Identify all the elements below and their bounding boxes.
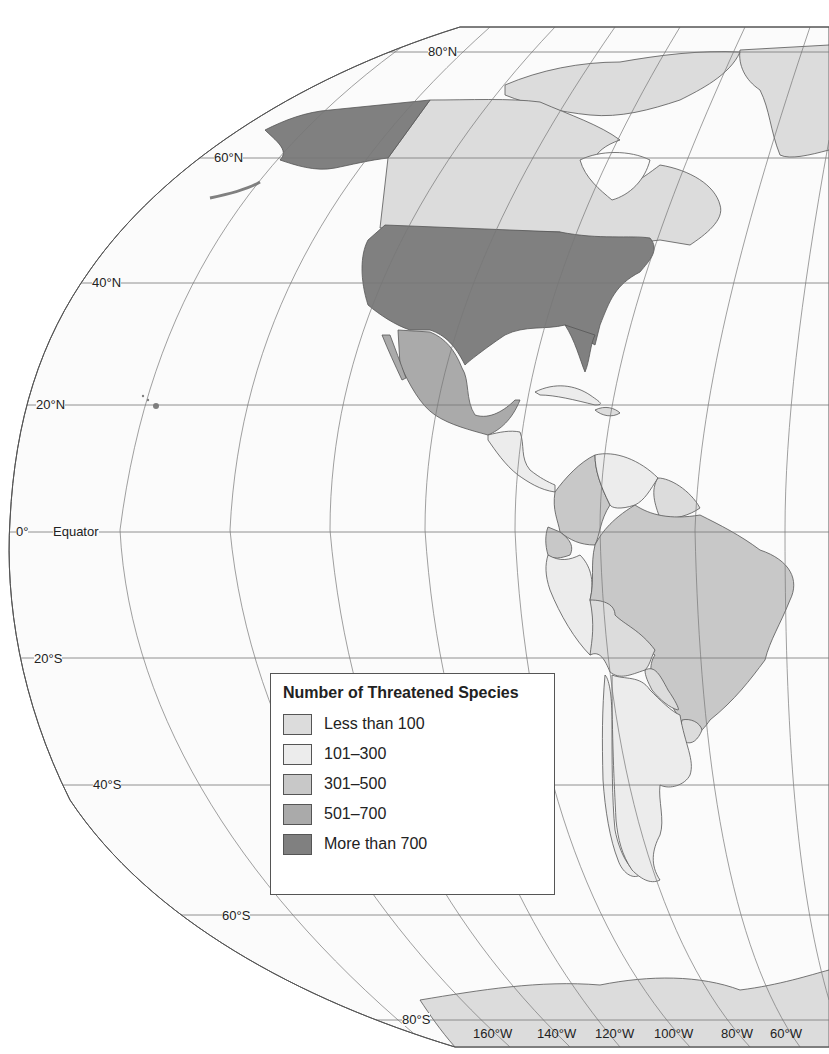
lon-label-100w: 100°W xyxy=(654,1027,693,1040)
lat-label-40n: 40°N xyxy=(92,276,121,289)
lat-label-20s: 20°S xyxy=(34,652,62,665)
lon-label-60w: 60°W xyxy=(770,1027,802,1040)
legend-title: Number of Threatened Species xyxy=(283,684,542,702)
lat-label-60n: 60°N xyxy=(214,151,243,164)
lon-label-80w: 80°W xyxy=(721,1027,753,1040)
lon-label-140w: 140°W xyxy=(537,1027,576,1040)
world-map xyxy=(0,0,829,1054)
legend-swatch-301-500 xyxy=(283,774,312,795)
legend-label: More than 700 xyxy=(324,835,427,853)
lat-label-20n: 20°N xyxy=(36,398,65,411)
legend-label: Less than 100 xyxy=(324,715,425,733)
region-hawaii xyxy=(153,403,159,409)
lat-label-40s: 40°S xyxy=(93,778,121,791)
legend-label: 101–300 xyxy=(324,745,386,763)
legend-item: Less than 100 xyxy=(283,709,542,739)
legend-item: 501–700 xyxy=(283,799,542,829)
lat-label-equator: Equator xyxy=(53,525,99,538)
legend-swatch-101-300 xyxy=(283,744,312,765)
legend-swatch-501-700 xyxy=(283,804,312,825)
legend-item: More than 700 xyxy=(283,829,542,859)
legend-swatch-more-than-700 xyxy=(283,834,312,855)
legend-label: 501–700 xyxy=(324,805,386,823)
lat-label-equator-degree: 0° xyxy=(16,525,28,538)
map-legend: Number of Threatened Species Less than 1… xyxy=(270,673,555,895)
legend-item: 301–500 xyxy=(283,769,542,799)
lat-label-60s: 60°S xyxy=(222,909,250,922)
lat-label-80n: 80°N xyxy=(428,45,457,58)
legend-item: 101–300 xyxy=(283,739,542,769)
legend-label: 301–500 xyxy=(324,775,386,793)
lat-label-80s: 80°S xyxy=(402,1013,430,1026)
lon-label-120w: 120°W xyxy=(595,1027,634,1040)
lon-label-160w: 160°W xyxy=(473,1027,512,1040)
legend-swatch-less-than-100 xyxy=(283,714,312,735)
